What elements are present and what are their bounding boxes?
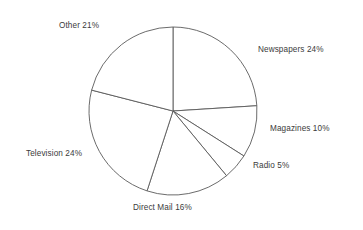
- pie-label-radio: Radio 5%: [253, 161, 289, 171]
- pie-chart-svg: [0, 0, 363, 230]
- pie-slices-group: [89, 27, 257, 195]
- pie-chart: Other 21% Newspapers 24% Magazines 10% R…: [0, 0, 363, 230]
- pie-label-direct-mail: Direct Mail 16%: [133, 203, 192, 213]
- pie-label-other: Other 21%: [59, 21, 99, 31]
- pie-label-newspapers: Newspapers 24%: [258, 45, 324, 55]
- pie-label-television: Television 24%: [26, 149, 82, 159]
- pie-slice-newspapers: [173, 27, 257, 111]
- pie-label-magazines: Magazines 10%: [270, 124, 330, 134]
